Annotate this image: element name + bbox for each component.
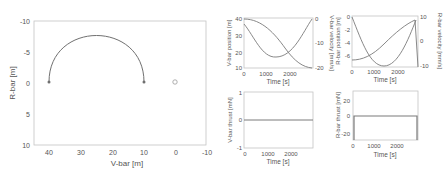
rbar-thrust-plot: 20 0 -20 0 1000 2000 Time [s] R-bar thru… [335,91,418,159]
time-xtick: 1000 [367,143,381,149]
start-marker [48,81,51,84]
time-xtick: 2000 [390,143,404,149]
rpos-ytick: -4 [345,40,351,46]
traj-ytick: 5 [26,111,30,118]
traj-xlabel: V-bar [m] [111,159,143,168]
rbar-pos-vel-plot: 0 -2 -4 -6 10 0 -10 0 1000 2000 Time [s]… [335,13,443,84]
traj-xtick: 20 [109,149,117,156]
time-xtick: 2000 [391,69,405,75]
trajectory-axes-box [34,21,206,145]
figure: -10 -5 0 5 10 40 30 20 10 0 -10 V-bar [m… [0,0,448,175]
vthr-ytick: -1 [237,145,243,151]
rvel-ytick: 10 [420,14,427,20]
vvel-ytick: 0 [315,16,319,22]
rpos-ylabel: R-bar position [m] [335,17,341,65]
vthr-ylabel: V-bar thrust [mN] [227,97,233,143]
traj-xtick: 0 [174,149,178,156]
vbar-thrust-xlabel: Time [s] [267,158,290,166]
vvel-ytick: -20 [315,65,324,71]
rpos-ytick: 0 [347,14,351,20]
rthr-ylabel: R-bar thrust [mN] [335,92,341,138]
traj-ytick: 0 [26,80,30,87]
time-xtick: 0 [350,69,354,75]
vbar-pv-axes-box [244,18,313,68]
traj-xtick: 30 [77,149,85,156]
vbar-pos-vel-plot: 40 30 20 10 0 -10 -20 0 1000 2000 Time [… [226,15,335,86]
time-xtick: 1000 [367,69,381,75]
time-xtick: 0 [243,151,247,157]
traj-ylabel: R-bar [m] [8,66,17,99]
vpos-ytick: 20 [235,50,242,56]
rbar-thrust-xlabel: Time [s] [374,151,397,159]
vvel-ytick: -10 [315,40,324,46]
vthr-ytick: 1 [239,90,243,96]
rvel-ytick: -10 [420,63,429,69]
time-xtick: 0 [351,143,355,149]
rvel-ylabel: R-bar velocity [mm/s] [437,13,443,70]
traj-xtick: 10 [140,149,148,156]
rpos-ytick: -6 [345,53,351,59]
rthr-ytick: 0 [347,113,351,119]
traj-ytick: 10 [22,142,30,149]
rpos-ytick: -2 [345,27,351,33]
rbar-pv-xlabel: Time [s] [374,76,397,84]
traj-xtick: -10 [202,149,212,156]
end-marker [143,81,146,84]
rvel-ytick: 0 [420,38,424,44]
rthr-ytick: 20 [343,98,350,104]
vbar-pv-xlabel: Time [s] [267,78,290,86]
vthr-ytick: 0 [239,117,243,123]
vpos-ylabel: V-bar position [m] [226,19,232,66]
trajectory-plot: -10 -5 0 5 10 40 30 20 10 0 -10 V-bar [m… [8,18,212,168]
time-xtick: 1000 [259,71,273,77]
vpos-ytick: 30 [235,33,242,39]
vbar-thrust-plot: 1 0 -1 0 1000 2000 Time [s] V-bar thrust… [227,90,313,166]
time-xtick: 1000 [261,151,275,157]
vpos-ytick: 40 [235,16,242,22]
time-xtick: 2000 [283,71,297,77]
rthr-ytick: -20 [341,131,350,137]
time-xtick: 2000 [284,151,298,157]
traj-ytick: -5 [24,49,30,56]
traj-ytick: -10 [20,18,30,25]
traj-xtick: 40 [45,149,53,156]
time-xtick: 0 [242,71,246,77]
